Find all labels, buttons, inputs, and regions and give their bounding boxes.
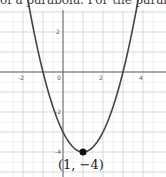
vertex-label: (1, −4) [58,157,104,172]
svg-text:0: 0 [57,74,61,81]
svg-text:2: 2 [56,28,60,35]
svg-text:-2: -2 [18,74,24,81]
svg-text:2: 2 [99,74,103,81]
svg-text:-4: -4 [55,148,61,155]
svg-text:4: 4 [139,74,143,81]
parabola-chart: -20242-2-4 (1, −4) [0,0,166,177]
vertex-point [80,149,87,156]
